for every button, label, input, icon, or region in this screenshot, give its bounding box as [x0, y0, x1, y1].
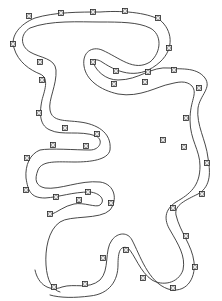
marker-square-icon — [114, 69, 119, 74]
marker-square-icon — [184, 116, 189, 121]
marker-square-icon — [172, 68, 177, 73]
marker-square-icon — [52, 285, 57, 290]
marker-square-icon — [101, 256, 106, 261]
marker-square-icon — [24, 188, 29, 193]
marker-square-icon — [197, 86, 202, 91]
marker-square-icon — [156, 16, 161, 21]
marker-square-icon — [86, 190, 91, 195]
marker-square-icon — [200, 192, 205, 197]
marker-square-icon — [124, 248, 129, 253]
marker-square-icon — [38, 60, 43, 65]
marker-square-icon — [27, 14, 32, 19]
marker-square-icon — [112, 82, 117, 87]
marker-square-icon — [167, 46, 172, 51]
marker-square-icon — [171, 286, 176, 291]
marker-square-icon — [48, 212, 53, 217]
marker-square-icon — [146, 70, 151, 75]
marker-square-icon — [40, 78, 45, 83]
marker-square-icon — [141, 276, 146, 281]
marker-square-icon — [84, 144, 89, 149]
marker-square-icon — [95, 132, 100, 137]
marker-square-icon — [37, 111, 42, 116]
marker-square-icon — [182, 145, 187, 150]
marker-square-icon — [123, 9, 128, 14]
marker-square-icon — [11, 42, 16, 47]
marker-square-icon — [109, 201, 114, 206]
marker-square-icon — [161, 138, 166, 143]
marker-square-icon — [91, 60, 96, 65]
marker-square-icon — [184, 234, 189, 239]
road-diagram — [0, 0, 222, 301]
marker-square-icon — [51, 143, 56, 148]
marker-square-icon — [193, 265, 198, 270]
marker-square-icon — [77, 198, 82, 203]
road-inner-edge — [23, 22, 201, 298]
marker-square-icon — [171, 206, 176, 211]
marker-square-icon — [205, 161, 210, 166]
marker-square-icon — [63, 126, 68, 131]
marker-square-icon — [83, 282, 88, 287]
marker-square-icon — [91, 10, 96, 15]
marker-square-icon — [25, 156, 30, 161]
marker-square-icon — [143, 80, 148, 85]
marker-square-icon — [54, 195, 59, 200]
marker-square-icon — [59, 11, 64, 16]
